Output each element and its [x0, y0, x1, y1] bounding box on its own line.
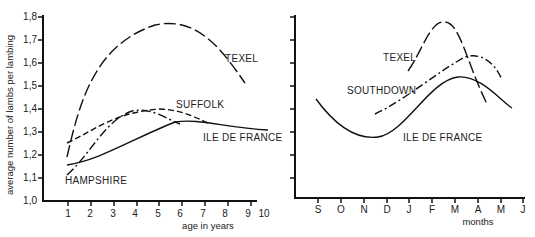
svg-text:M: M [497, 204, 505, 215]
svg-text:1,0: 1,0 [23, 195, 37, 206]
left-label-suffolk: SUFFOLK [176, 99, 224, 110]
left-label-ile-de-france: ILE DE FRANCE [203, 132, 283, 143]
svg-text:M: M [451, 204, 459, 215]
svg-text:3: 3 [110, 208, 116, 219]
svg-text:6: 6 [177, 208, 183, 219]
left-x-tick-labels: 1 2 3 4 5 6 7 8 9 10 [65, 208, 270, 219]
left-ile-de-france-curve [67, 121, 268, 165]
svg-text:N: N [360, 204, 367, 215]
left-chart: average number of lambs per lambing 1,0 … [4, 11, 283, 231]
svg-text:S: S [315, 204, 322, 215]
svg-text:1,7: 1,7 [23, 34, 37, 45]
right-label-texel: TEXEL [383, 52, 416, 63]
svg-text:1,2: 1,2 [23, 149, 37, 160]
right-label-ile-de-france: ILE DE FRANCE [403, 132, 483, 143]
svg-text:1,4: 1,4 [23, 103, 37, 114]
svg-text:9: 9 [245, 208, 251, 219]
right-x-axis-label: months [462, 216, 493, 227]
left-label-hampshire: HAMPSHIRE [65, 175, 127, 186]
lambing-charts: average number of lambs per lambing 1,0 … [0, 0, 535, 237]
right-axes [295, 15, 525, 198]
svg-text:1,6: 1,6 [23, 57, 37, 68]
right-chart: S O N D J F M A M J months TEXEL SOUTHDO… [290, 15, 526, 227]
svg-text:4: 4 [132, 208, 138, 219]
svg-text:F: F [429, 204, 435, 215]
svg-text:5: 5 [155, 208, 161, 219]
right-texel-curve [408, 22, 488, 106]
left-hampshire-curve [67, 110, 180, 175]
svg-text:O: O [337, 204, 345, 215]
left-y-tick-labels: 1,0 1,1 1,2 1,3 1,4 1,5 1,6 1,7 1,8 [23, 11, 37, 206]
svg-text:D: D [383, 204, 390, 215]
svg-text:1: 1 [65, 208, 71, 219]
right-label-southdown: SOUTHDOWN [347, 85, 416, 96]
svg-text:1,5: 1,5 [23, 80, 37, 91]
svg-text:1,1: 1,1 [23, 172, 37, 183]
left-label-texel: TEXEL [225, 53, 258, 64]
svg-text:8: 8 [222, 208, 228, 219]
left-y-axis-label: average number of lambs per lambing [4, 35, 15, 195]
svg-text:J: J [521, 204, 526, 215]
svg-text:A: A [475, 204, 482, 215]
left-axes [43, 15, 257, 201]
svg-text:1,3: 1,3 [23, 126, 37, 137]
svg-text:J: J [407, 204, 412, 215]
svg-text:10: 10 [258, 208, 270, 219]
right-x-tick-labels: S O N D J F M A M J [315, 204, 526, 215]
svg-text:2: 2 [87, 208, 93, 219]
svg-text:1,8: 1,8 [23, 11, 37, 22]
svg-text:7: 7 [200, 208, 206, 219]
left-x-axis-label: age in years [182, 220, 234, 231]
